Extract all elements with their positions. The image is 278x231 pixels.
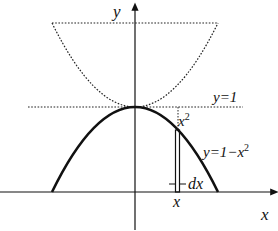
area-diagram: y x y=1 x2 y=1−x2 dx x (0, 0, 278, 231)
strip-x-label: x (172, 193, 180, 210)
y-equals-1-label: y=1 (211, 89, 237, 105)
x-axis-label: x (260, 205, 269, 224)
integration-strip (176, 130, 180, 192)
gap-label: x2 (177, 111, 190, 129)
dx-label: dx (188, 175, 203, 192)
main-parabola-label: y=1−x2 (201, 142, 249, 160)
y-axis-label: y (111, 2, 121, 21)
